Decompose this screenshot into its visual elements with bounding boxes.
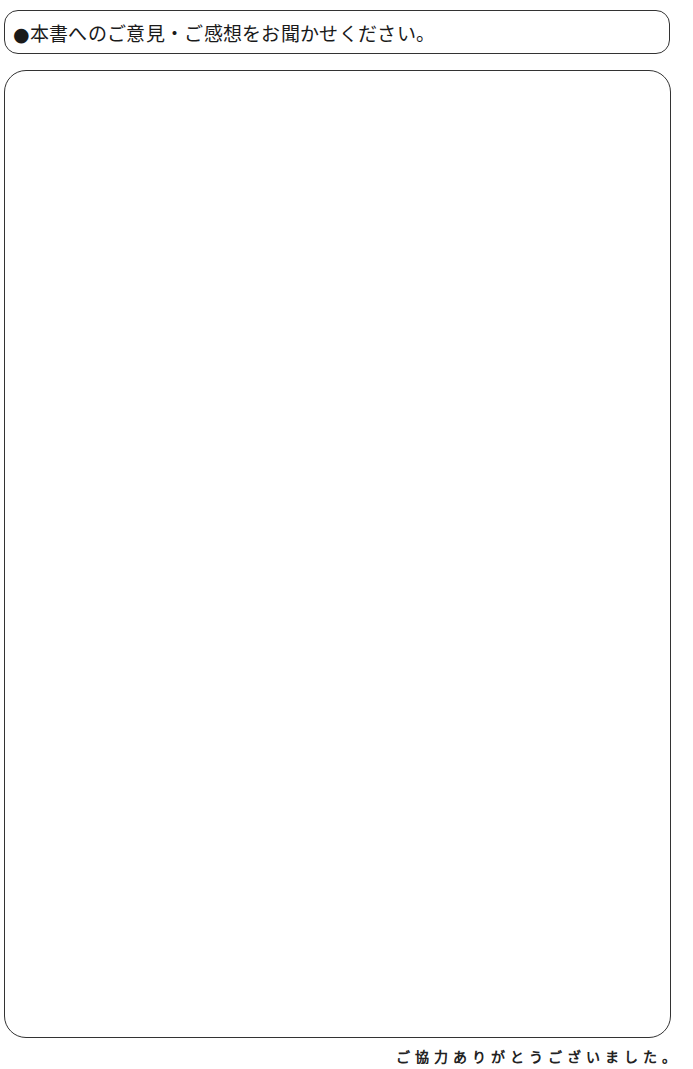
thank-you-note: ご協力ありがとうございました。 [396, 1046, 681, 1066]
comment-box[interactable] [4, 70, 671, 1038]
header-box: ●本書へのご意見・ご感想をお聞かせください。 [4, 10, 670, 54]
comment-input[interactable] [5, 71, 670, 1037]
page-title: ●本書へのご意見・ご感想をお聞かせください。 [13, 19, 435, 46]
